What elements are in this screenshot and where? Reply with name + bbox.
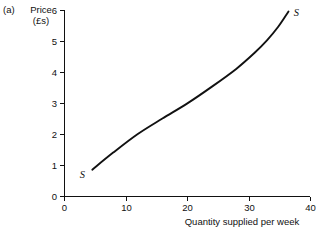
y-tick-label: 3	[52, 98, 57, 109]
x-tick-label: 0	[62, 202, 67, 213]
plot-area: 0123456 010203040 SS	[0, 0, 324, 233]
y-tick-label: 5	[52, 36, 57, 47]
y-tick-label: 2	[52, 129, 57, 140]
supply-curve-label: S	[294, 7, 300, 18]
supply-curve	[92, 12, 288, 170]
x-axis-title: Quantity supplied per week	[160, 216, 324, 227]
y-tick-label: 0	[52, 191, 57, 202]
x-tick-label: 20	[182, 202, 193, 213]
supply-curve-figure: (a) Price (£s) 0123456 010203040 SS Quan…	[0, 0, 324, 233]
supply-curve-label: S	[80, 169, 86, 180]
y-tick-label: 1	[52, 160, 57, 171]
x-tick-label: 30	[244, 202, 255, 213]
y-tick-label: 6	[52, 5, 57, 16]
x-tick-group: 010203040	[62, 197, 316, 214]
x-tick-label: 10	[121, 202, 132, 213]
y-tick-group: 0123456	[52, 5, 65, 202]
y-tick-label: 4	[52, 67, 57, 78]
x-tick-label: 40	[305, 202, 316, 213]
